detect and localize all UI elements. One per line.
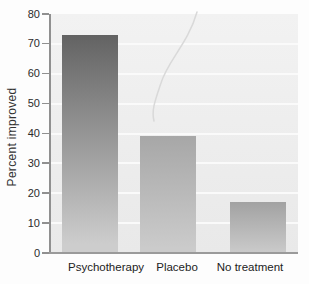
- category-label-no-treatment: No treatment: [217, 261, 283, 273]
- y-tick-label-60: 60: [14, 68, 40, 79]
- bar-placebo: [140, 136, 196, 253]
- y-tick-label-50: 50: [14, 98, 40, 109]
- y-tick-40: [42, 133, 49, 135]
- y-tick-label-20: 20: [14, 188, 40, 199]
- plot-area: [50, 14, 298, 253]
- y-tick-20: [42, 192, 49, 194]
- y-tick-label-70: 70: [14, 38, 40, 49]
- y-tick-10: [42, 222, 49, 224]
- bar-psychotherapy: [62, 35, 118, 253]
- y-tick-label-80: 80: [14, 9, 40, 20]
- y-tick-label-40: 40: [14, 128, 40, 139]
- y-tick-70: [42, 43, 49, 45]
- y-axis-line: [49, 14, 51, 253]
- y-tick-80: [42, 13, 49, 15]
- y-tick-30: [42, 162, 49, 164]
- category-label-placebo: Placebo: [156, 261, 198, 273]
- y-tick-60: [42, 73, 49, 75]
- y-tick-0: [42, 252, 49, 254]
- x-axis-baseline: [49, 252, 298, 254]
- bar-chart-figure: Percent improved 01020304050607080 Psych…: [0, 0, 309, 284]
- bar-no-treatment: [230, 202, 286, 253]
- category-label-psychotherapy: Psychotherapy: [68, 261, 144, 273]
- y-tick-label-0: 0: [14, 248, 40, 259]
- y-tick-50: [42, 103, 49, 105]
- y-tick-label-10: 10: [14, 218, 40, 229]
- y-tick-label-30: 30: [14, 158, 40, 169]
